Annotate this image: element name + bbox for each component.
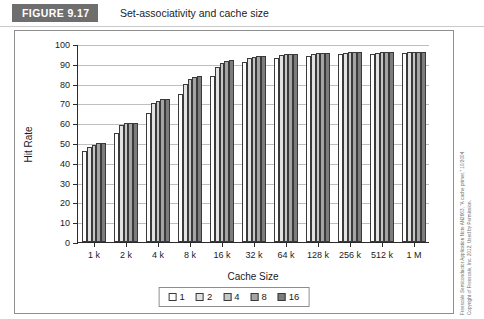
x-tick-mark bbox=[414, 242, 415, 247]
chart-frame: Hit Rate 0102030405060708090100 1 k2 k4 … bbox=[14, 30, 454, 314]
legend-item: 2 bbox=[196, 292, 212, 302]
x-tick-mark bbox=[190, 242, 191, 247]
plot-area: 0102030405060708090100 1 k2 k4 k8 k16 k3… bbox=[77, 45, 429, 243]
y-tick-label: 40 bbox=[60, 159, 70, 168]
bar-group bbox=[174, 45, 206, 242]
credit-block: Freescale Semiconductor Application Note… bbox=[457, 0, 483, 319]
legend-label: 4 bbox=[234, 292, 239, 302]
legend-label: 2 bbox=[207, 292, 212, 302]
y-axis-title: Hit Rate bbox=[21, 45, 35, 243]
x-tick-label: 256 k bbox=[339, 250, 361, 260]
legend-item: 4 bbox=[223, 292, 239, 302]
x-tick-label: 64 k bbox=[277, 250, 294, 260]
legend-label: 1 bbox=[180, 292, 185, 302]
bar-group bbox=[302, 45, 334, 242]
header-divider bbox=[0, 26, 484, 27]
y-tick-label: 20 bbox=[60, 199, 70, 208]
y-tick-mark bbox=[73, 243, 78, 244]
legend-item: 8 bbox=[251, 292, 267, 302]
y-tick-label: 50 bbox=[60, 140, 70, 149]
x-tick-label: 32 k bbox=[245, 250, 262, 260]
bar-group bbox=[238, 45, 270, 242]
bar bbox=[165, 99, 169, 242]
x-tick-mark bbox=[350, 242, 351, 247]
x-tick-mark bbox=[126, 242, 127, 247]
x-tick-mark bbox=[382, 242, 383, 247]
x-tick-label: 128 k bbox=[307, 250, 329, 260]
x-tick-label: 512 k bbox=[371, 250, 393, 260]
x-tick-mark bbox=[286, 242, 287, 247]
x-tick-mark bbox=[222, 242, 223, 247]
bar bbox=[229, 60, 233, 242]
y-tick-label: 70 bbox=[60, 100, 70, 109]
bars-layer bbox=[78, 45, 429, 242]
bar bbox=[261, 56, 265, 242]
legend-label: 8 bbox=[262, 292, 267, 302]
y-tick-label: 80 bbox=[60, 80, 70, 89]
x-axis-title: Cache Size bbox=[77, 271, 429, 282]
legend-item: 1 bbox=[169, 292, 185, 302]
y-tick-label: 100 bbox=[55, 41, 70, 50]
bar bbox=[389, 52, 393, 242]
bar bbox=[421, 52, 425, 242]
x-tick-mark bbox=[94, 242, 95, 247]
bar bbox=[133, 123, 137, 242]
legend-label: 16 bbox=[289, 292, 300, 302]
y-axis-title-label: Hit Rate bbox=[23, 126, 34, 162]
chart-legend: 124816 bbox=[159, 287, 310, 307]
credit-line-source: Freescale Semiconductor Application Note… bbox=[460, 152, 465, 315]
x-tick-mark bbox=[158, 242, 159, 247]
x-tick-label: 2 k bbox=[120, 250, 132, 260]
y-tick-label: 10 bbox=[60, 219, 70, 228]
figure-number-badge: FIGURE 9.17 bbox=[12, 4, 98, 22]
bar-group bbox=[142, 45, 174, 242]
bar-group bbox=[110, 45, 142, 242]
bar-group bbox=[270, 45, 302, 242]
bar bbox=[101, 143, 105, 242]
x-tick-mark bbox=[254, 242, 255, 247]
y-tick-label: 90 bbox=[60, 60, 70, 69]
bar-group bbox=[334, 45, 366, 242]
figure-caption: Set-associativity and cache size bbox=[120, 7, 269, 19]
legend-swatch bbox=[169, 293, 177, 301]
bar bbox=[293, 54, 297, 242]
y-tick-label: 30 bbox=[60, 179, 70, 188]
bar bbox=[197, 76, 201, 242]
legend-item: 16 bbox=[278, 292, 300, 302]
bar bbox=[357, 52, 361, 242]
bar-group bbox=[78, 45, 110, 242]
bar bbox=[325, 53, 329, 242]
y-tick-label: 0 bbox=[65, 239, 70, 248]
bar-group bbox=[398, 45, 430, 242]
x-tick-mark bbox=[318, 242, 319, 247]
legend-swatch bbox=[196, 293, 204, 301]
y-tick-label: 60 bbox=[60, 120, 70, 129]
legend-swatch bbox=[223, 293, 231, 301]
figure-header: FIGURE 9.17 Set-associativity and cache … bbox=[0, 0, 484, 26]
legend-swatch bbox=[278, 293, 286, 301]
bar-group bbox=[366, 45, 398, 242]
x-tick-label: 16 k bbox=[213, 250, 230, 260]
x-tick-label: 1 M bbox=[406, 250, 421, 260]
legend-swatch bbox=[251, 293, 259, 301]
x-tick-label: 1 k bbox=[88, 250, 100, 260]
bar-group bbox=[206, 45, 238, 242]
credit-line-copyright: Copyright of Freescale, Inc. 2012; Used … bbox=[467, 200, 472, 315]
x-tick-label: 8 k bbox=[184, 250, 196, 260]
x-tick-label: 4 k bbox=[152, 250, 164, 260]
